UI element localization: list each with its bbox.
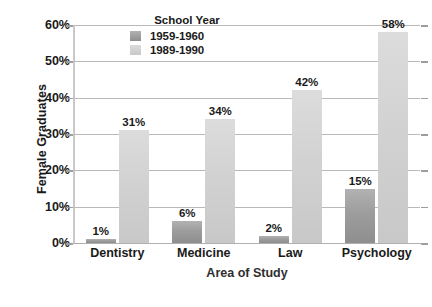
y-axis-tick-label: 0% <box>18 236 70 250</box>
x-axis-category-label: Law <box>278 246 302 260</box>
legend-swatch-icon <box>130 31 141 41</box>
axis-tick-mark <box>66 134 73 136</box>
axis-tick-mark <box>421 243 428 245</box>
y-axis-tick-label: 20% <box>18 163 70 177</box>
y-axis-tick-label: 10% <box>18 200 70 214</box>
axis-tick-mark <box>421 134 428 136</box>
axis-tick-mark <box>66 98 73 100</box>
y-axis-tick-label: 40% <box>18 91 70 105</box>
y-axis-tick-label: 60% <box>18 18 70 32</box>
bar-value-label: 58% <box>382 18 405 30</box>
x-axis-category-labels: DentistryMedicineLawPsychology <box>74 246 420 266</box>
x-axis-category-label: Dentistry <box>90 246 144 260</box>
axis-tick-mark <box>66 25 73 27</box>
y-axis-tick-labels: 0%10%20%30%40%50%60% <box>18 0 70 307</box>
legend-entry[interactable]: 1959-1960 <box>130 30 244 42</box>
x-axis-category-label: Medicine <box>177 246 231 260</box>
axis-tick-mark <box>421 207 428 209</box>
axis-tick-mark <box>421 170 428 172</box>
axis-tick-mark <box>66 170 73 172</box>
axis-tick-mark <box>421 61 428 63</box>
axis-tick-mark <box>66 61 73 63</box>
axis-tick-mark <box>421 98 428 100</box>
legend-swatch-icon <box>130 45 141 55</box>
legend-label: 1989-1990 <box>150 44 204 56</box>
legend-entries: 1959-19601989-1990 <box>112 30 244 56</box>
y-axis-tick-label: 50% <box>18 54 70 68</box>
legend-title: School Year <box>130 14 244 26</box>
bar-value-label: 15% <box>349 175 372 187</box>
x-axis-category-label: Psychology <box>342 246 412 260</box>
legend: School Year 1959-19601989-1990 <box>112 14 244 58</box>
bar-chart-figure: Female Graduates 0%10%20%30%40%50%60% 1%… <box>0 0 432 307</box>
y-axis-tick-label: 30% <box>18 127 70 141</box>
axis-tick-mark <box>421 25 428 27</box>
bar[interactable] <box>378 32 408 243</box>
x-axis-title: Area of Study <box>74 266 420 280</box>
legend-entry[interactable]: 1989-1990 <box>130 44 244 56</box>
legend-label: 1959-1960 <box>150 30 204 42</box>
bar[interactable] <box>345 189 375 244</box>
axis-tick-mark <box>66 207 73 209</box>
x-axis-baseline <box>72 243 422 245</box>
